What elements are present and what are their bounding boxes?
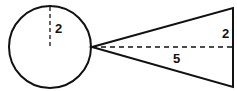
triangle-height-label: 5 (173, 51, 180, 66)
triangle-half-base-label: 2 (222, 26, 229, 41)
circle-triangle-diagram: 2 5 2 (0, 0, 237, 91)
circle-radius-label: 2 (55, 21, 62, 36)
